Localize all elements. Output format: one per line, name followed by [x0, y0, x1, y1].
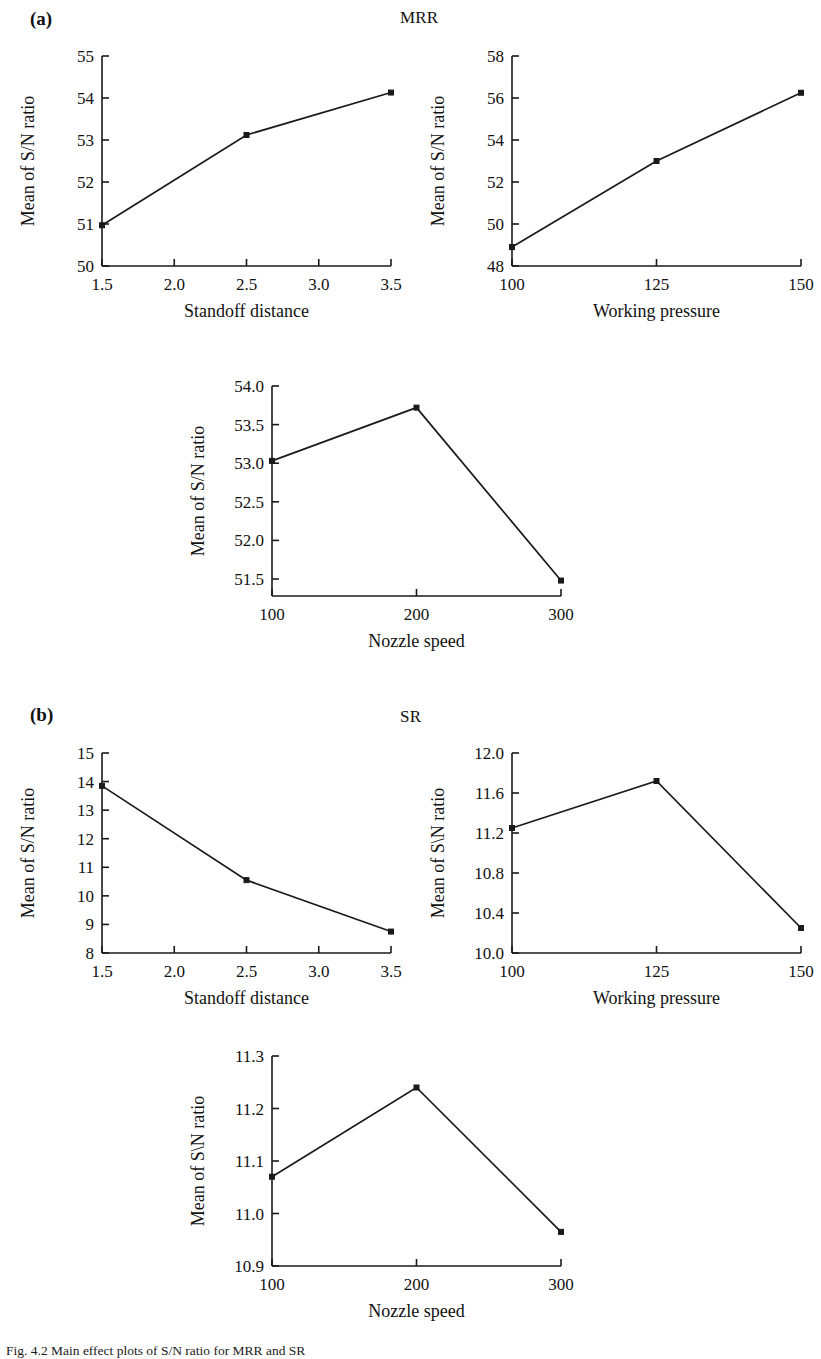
y-axis-title: Mean of S/N ratio: [188, 426, 208, 556]
chart-sr-working-pressure: 10.010.410.811.211.612.0100125150Mean of…: [420, 735, 815, 1025]
x-tick-label: 150: [788, 962, 814, 981]
y-tick-label: 51: [77, 215, 94, 234]
x-tick-label: 3.0: [308, 275, 329, 294]
data-point-marker: [414, 1085, 419, 1090]
x-tick-label: 2.5: [236, 962, 257, 981]
y-tick-label: 15: [77, 744, 94, 763]
y-tick-label: 11: [78, 858, 94, 877]
x-tick-label: 1.5: [91, 275, 112, 294]
y-tick-label: 12: [77, 830, 94, 849]
data-series-line: [272, 408, 561, 581]
group-title-sr: SR: [400, 707, 421, 727]
y-tick-label: 10.9: [234, 1257, 264, 1276]
data-point-marker: [244, 878, 249, 883]
figure-caption: Fig. 4.2 Main effect plots of S/N ratio …: [6, 1343, 305, 1359]
data-series-line: [512, 93, 801, 247]
y-tick-label: 11.2: [235, 1100, 264, 1119]
y-tick-label: 8: [86, 944, 95, 963]
y-tick-label: 11.6: [475, 784, 504, 803]
data-point-marker: [559, 1229, 564, 1234]
data-point-marker: [654, 159, 659, 164]
data-point-marker: [389, 929, 394, 934]
chart-mrr-standoff-distance: 5051525354551.52.02.53.03.5Mean of S/N r…: [10, 38, 405, 338]
y-tick-label: 52.5: [234, 493, 264, 512]
panel-tag-a: (a): [30, 8, 52, 30]
y-axis-title: Mean of S/N ratio: [18, 788, 38, 918]
y-tick-label: 52: [487, 173, 504, 192]
data-point-marker: [389, 90, 394, 95]
data-series-line: [102, 93, 391, 226]
data-point-marker: [510, 245, 515, 250]
x-tick-label: 100: [499, 275, 525, 294]
data-point-marker: [270, 458, 275, 463]
y-tick-label: 53: [77, 131, 94, 150]
panel-tag-b: (b): [30, 704, 53, 726]
y-tick-label: 10.4: [474, 904, 504, 923]
x-tick-label: 100: [259, 1275, 285, 1294]
x-tick-label: 150: [788, 275, 814, 294]
y-tick-label: 54: [77, 89, 95, 108]
y-tick-label: 53.5: [234, 416, 264, 435]
y-tick-label: 10.8: [474, 864, 504, 883]
x-axis-title: Working pressure: [593, 988, 720, 1008]
x-tick-label: 125: [644, 275, 670, 294]
y-tick-label: 58: [487, 47, 504, 66]
y-axis-title: Mean of S/N ratio: [428, 96, 448, 226]
x-axis-title: Standoff distance: [184, 988, 309, 1008]
x-tick-label: 2.5: [236, 275, 257, 294]
y-tick-label: 14: [77, 773, 95, 792]
y-axis-title: Mean of S\N ratio: [188, 1096, 208, 1226]
y-tick-label: 52: [77, 173, 94, 192]
y-tick-label: 54.0: [234, 377, 264, 396]
data-series-line: [272, 1088, 561, 1232]
x-axis-title: Nozzle speed: [368, 1301, 464, 1321]
data-point-marker: [414, 405, 419, 410]
y-tick-label: 10.0: [474, 944, 504, 963]
y-tick-label: 11.0: [235, 1205, 264, 1224]
x-axis-title: Standoff distance: [184, 301, 309, 321]
data-series-line: [102, 786, 391, 932]
x-tick-label: 300: [548, 1275, 574, 1294]
y-tick-label: 10: [77, 887, 94, 906]
x-tick-label: 2.0: [164, 962, 185, 981]
y-tick-label: 55: [77, 47, 94, 66]
x-tick-label: 1.5: [91, 962, 112, 981]
y-tick-label: 51.5: [234, 570, 264, 589]
x-tick-label: 125: [644, 962, 670, 981]
data-point-marker: [559, 578, 564, 583]
chart-sr-nozzle-speed: 10.911.011.111.211.3100200300Mean of S\N…: [180, 1038, 575, 1338]
y-tick-label: 11.1: [235, 1152, 264, 1171]
data-point-marker: [100, 223, 105, 228]
group-title-mrr: MRR: [400, 8, 438, 28]
data-series-line: [512, 781, 801, 928]
data-point-marker: [244, 132, 249, 137]
x-tick-label: 100: [499, 962, 525, 981]
chart-mrr-nozzle-speed: 51.552.052.553.053.554.0100200300Mean of…: [180, 368, 575, 668]
y-tick-label: 48: [487, 257, 504, 276]
data-point-marker: [654, 779, 659, 784]
y-tick-label: 56: [487, 89, 504, 108]
x-tick-label: 3.0: [308, 962, 329, 981]
y-tick-label: 13: [77, 801, 94, 820]
chart-mrr-working-pressure: 485052545658100125150Mean of S/N ratioWo…: [420, 38, 815, 338]
data-point-marker: [510, 826, 515, 831]
x-axis-title: Nozzle speed: [368, 631, 464, 651]
x-tick-label: 3.5: [380, 962, 401, 981]
x-tick-label: 200: [404, 1275, 430, 1294]
x-tick-label: 2.0: [164, 275, 185, 294]
x-tick-label: 200: [404, 605, 430, 624]
y-tick-label: 53.0: [234, 454, 264, 473]
y-tick-label: 50: [77, 257, 94, 276]
y-axis-title: Mean of S\N ratio: [428, 788, 448, 918]
y-axis-title: Mean of S/N ratio: [18, 96, 38, 226]
x-tick-label: 300: [548, 605, 574, 624]
y-tick-label: 52.0: [234, 531, 264, 550]
y-tick-label: 11.2: [475, 824, 504, 843]
y-tick-label: 12.0: [474, 744, 504, 763]
data-point-marker: [270, 1174, 275, 1179]
x-tick-label: 100: [259, 605, 285, 624]
x-tick-label: 3.5: [380, 275, 401, 294]
y-tick-label: 9: [86, 915, 95, 934]
x-axis-title: Working pressure: [593, 301, 720, 321]
y-tick-label: 50: [487, 215, 504, 234]
